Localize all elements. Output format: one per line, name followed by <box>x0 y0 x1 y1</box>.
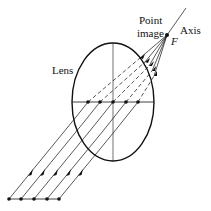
rays-inside-lens <box>76 102 138 132</box>
lens-diagram: Lens Point image Axis F <box>0 0 211 211</box>
focal-point-label: F <box>171 36 178 47</box>
focal-point-dot <box>165 33 169 37</box>
point-image-label-line1: Point <box>139 15 162 26</box>
axis-label: Axis <box>180 25 201 36</box>
lens-label: Lens <box>52 65 73 76</box>
point-image-label-line2: image <box>137 28 164 39</box>
